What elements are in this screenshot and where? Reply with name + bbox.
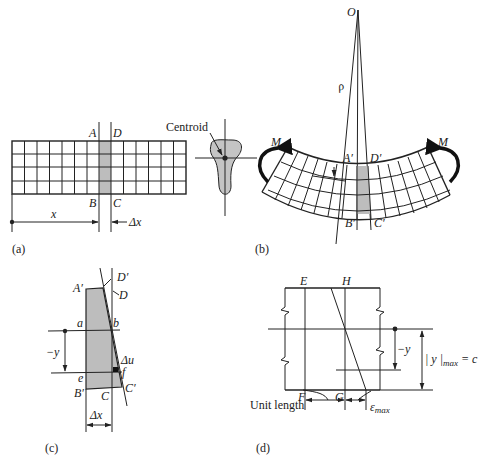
label-e: e (78, 371, 84, 385)
neutral-axis-marker (313, 176, 345, 181)
caption-b: (b) (255, 242, 269, 256)
label-a: a (77, 316, 83, 330)
rho-line (336, 10, 358, 244)
label-neg-y: −y (397, 342, 411, 356)
label-O: O (347, 5, 356, 19)
label-D-prime: D′ (116, 270, 129, 284)
panel-d: E H F G −y | y |max = c Unit length εmax… (250, 274, 478, 455)
label-M-right: M (437, 135, 449, 149)
centroid-dot (222, 155, 227, 160)
label-D: D (112, 126, 122, 140)
label-B-prime: B′ (345, 216, 355, 230)
label-eps-max: εmax (370, 400, 390, 415)
label-D: D (118, 288, 128, 302)
eps-leader (358, 391, 371, 400)
label-D-prime: D′ (369, 151, 382, 165)
beam-bending-figure: A D B C x Δx (a) Centroid (0, 0, 485, 466)
left-break-line (281, 288, 289, 390)
label-centroid: Centroid (166, 120, 208, 134)
rotated-line (331, 288, 366, 390)
label-C: C (101, 389, 110, 403)
label-b: b (113, 316, 119, 330)
label-G: G (335, 390, 344, 404)
label-rho: ρ (336, 78, 346, 93)
label-B: B (89, 196, 97, 210)
d-prime-leader (104, 279, 111, 286)
right-break-line (376, 288, 384, 390)
unit-length-leader (303, 390, 328, 400)
label-H: H (341, 274, 352, 288)
label-neg-y: −y (46, 345, 60, 359)
label-C-prime: C′ (125, 381, 136, 395)
label-A: A (88, 126, 97, 140)
caption-a: (a) (12, 242, 25, 256)
label-dx: Δx (128, 215, 142, 229)
label-A-prime: A′ (342, 151, 353, 165)
label-x: x (50, 207, 57, 221)
deformed-element (86, 288, 122, 389)
moment-arrow-right (440, 148, 458, 182)
panel-b: O ρ M M A′ D′ B′ C′ (b) (255, 5, 458, 256)
cross-section-shape (210, 140, 241, 195)
du-marker (113, 367, 118, 372)
panel-a: A D B C x Δx (a) (10, 122, 186, 256)
label-M-left: M (270, 135, 282, 149)
label-f: f (122, 365, 127, 379)
label-A-prime: A′ (72, 281, 83, 295)
panel-c: A′ D′ D a b −y Δu f e B′ C C′ Δx (c) (45, 268, 136, 455)
label-C: C (113, 196, 122, 210)
label-C-prime: C′ (374, 216, 385, 230)
label-E: E (299, 274, 308, 288)
caption-d: (d) (256, 441, 270, 455)
label-ymax: | y |max = c (425, 352, 478, 368)
label-dx: Δx (89, 408, 103, 422)
label-unit-length: Unit length (250, 398, 304, 412)
label-B-prime: B′ (74, 386, 84, 400)
bent-beam-grid (262, 147, 450, 220)
caption-c: (c) (45, 441, 58, 455)
